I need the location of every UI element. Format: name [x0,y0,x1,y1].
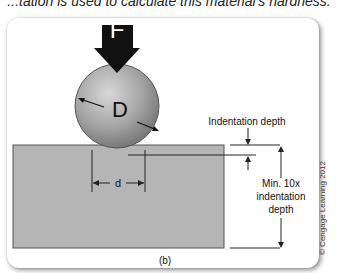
min-thickness-label-3: depth [268,204,293,215]
specimen-block [13,145,224,248]
min-thickness-label-2: indentation [257,191,306,202]
panel-label: (b) [159,255,171,266]
copyright-text: © Cengage Learning 2012 [318,161,327,255]
indentation-depth-label: Indentation depth [208,116,285,127]
arrowhead-icon [278,146,284,152]
indent-diameter-label: d [115,177,121,189]
arrowhead-icon [278,242,284,248]
arrowhead-icon [245,156,251,162]
brinell-diagram: F D d Indentation depth Min. 10x indenta… [0,0,338,273]
force-label: F [110,16,125,43]
arrowhead-icon [245,139,251,145]
ball-diameter-label: D [112,97,128,122]
min-thickness-label-1: Min. 10x [262,178,300,189]
